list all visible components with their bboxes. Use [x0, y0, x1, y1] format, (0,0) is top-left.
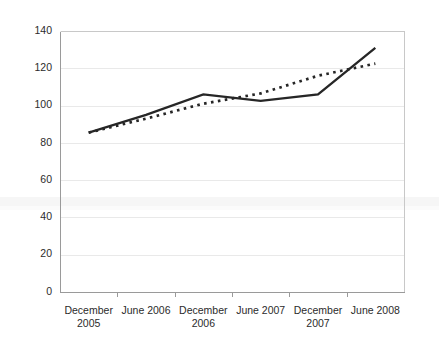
- plot-axes: [61, 32, 405, 293]
- x-axis-tick-label: December2005: [64, 304, 113, 329]
- x-axis-tick-label: December2007: [294, 304, 343, 329]
- series-line-solid: [89, 48, 376, 133]
- y-axis-tick-label: 140: [34, 24, 52, 36]
- y-axis-tick-label: 60: [40, 173, 52, 185]
- y-axis-tick-label: 20: [40, 247, 52, 259]
- x-axis-tick-label: June 2006: [121, 304, 170, 316]
- y-axis-tick-label: 80: [40, 136, 52, 148]
- chart-container: 020406080100120140 December2005June 2006…: [0, 0, 439, 356]
- line-chart-plot: 020406080100120140 December2005June 2006…: [0, 0, 439, 356]
- x-axis-tick-label: December2006: [179, 304, 228, 329]
- x-axis-tick-label: June 2007: [236, 304, 285, 316]
- y-axis-tick-label: 40: [40, 210, 52, 222]
- y-axis-tick-labels: 020406080100120140: [34, 24, 52, 297]
- x-axis-tick-label: June 2008: [351, 304, 400, 316]
- series-line-dotted: [89, 64, 376, 133]
- y-axis-tick-label: 100: [34, 98, 52, 110]
- y-axis-tick-label: 0: [46, 285, 52, 297]
- plot-frame: [61, 32, 405, 293]
- x-axis-tick-labels: December2005June 2006December2006June 20…: [64, 304, 400, 329]
- y-axis-tick-label: 120: [34, 61, 52, 73]
